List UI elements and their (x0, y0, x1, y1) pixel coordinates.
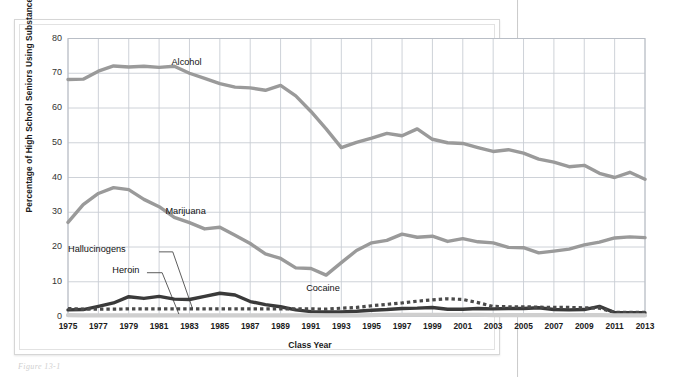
x-tick-label: 2001 (446, 321, 480, 331)
x-axis-title: Class Year (250, 340, 370, 350)
y-tick-label: 40 (40, 172, 62, 182)
x-tick-label: 2003 (476, 321, 510, 331)
x-tick-label: 2009 (567, 321, 601, 331)
y-tick-label: 80 (40, 33, 62, 43)
y-axis-title: Percentage of High School Seniors Using … (24, 0, 34, 230)
series-heroin (68, 315, 645, 316)
y-tick-label: 30 (40, 206, 62, 216)
x-tick-label: 2011 (598, 321, 632, 331)
x-tick-label: 1991 (294, 321, 328, 331)
x-tick-label: 1997 (385, 321, 419, 331)
line-chart: Percentage of High School Seniors Using … (0, 0, 687, 377)
x-tick-label: 2007 (537, 321, 571, 331)
x-tick-label: 1981 (142, 321, 176, 331)
alcohol-label: Alcohol (171, 57, 201, 67)
x-tick-label: 1977 (81, 321, 115, 331)
x-tick-label: 2005 (507, 321, 541, 331)
figure-page: Percentage of High School Seniors Using … (0, 0, 687, 377)
x-tick-label: 1995 (355, 321, 389, 331)
cocaine-label: Cocaine (306, 283, 340, 293)
x-tick-label: 2013 (628, 321, 662, 331)
x-tick-label: 1989 (264, 321, 298, 331)
x-tick-label: 1975 (51, 321, 85, 331)
x-tick-label: 1985 (203, 321, 237, 331)
y-tick-label: 50 (40, 137, 62, 147)
y-tick-label: 60 (40, 102, 62, 112)
y-tick-label: 20 (40, 241, 62, 251)
x-tick-label: 1993 (324, 321, 358, 331)
x-tick-label: 1999 (415, 321, 449, 331)
figure-caption: Figure 13-1 (18, 362, 318, 371)
y-tick-label: 10 (40, 276, 62, 286)
heroin-label: Heroin (112, 265, 139, 275)
hallucinogens-label: Hallucinogens (68, 244, 126, 254)
x-tick-label: 1983 (172, 321, 206, 331)
marijuana-label: Marijuana (165, 206, 205, 216)
y-tick-label: 0 (40, 311, 62, 321)
series-line-thin (68, 315, 645, 316)
y-tick-label: 70 (40, 67, 62, 77)
x-tick-label: 1987 (233, 321, 267, 331)
x-tick-label: 1979 (112, 321, 146, 331)
